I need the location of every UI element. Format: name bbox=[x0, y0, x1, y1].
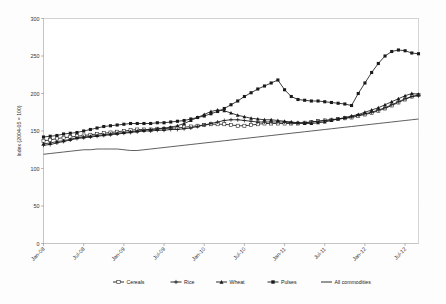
legend-item-cereals[interactable]: Cereals bbox=[113, 279, 145, 285]
y-tick-label: 150 bbox=[31, 128, 40, 134]
y-tick-label: 100 bbox=[31, 166, 40, 172]
legend-item-pulses[interactable]: Pulses bbox=[268, 279, 297, 285]
chart-svg: 050100150200250300 Jan-08Jul-08Jan-09Jul… bbox=[0, 0, 446, 304]
plot-frame bbox=[44, 19, 419, 244]
legend-label: Pulses bbox=[281, 279, 297, 285]
chart-legend: CerealsRiceWheatPulsesAll commodities bbox=[113, 279, 371, 285]
chart-figure: 050100150200250300 Jan-08Jul-08Jan-09Jul… bbox=[0, 0, 446, 304]
x-tick-label: Jul-12 bbox=[393, 246, 408, 261]
x-tick-label: Jul-08 bbox=[71, 246, 86, 261]
legend-item-all-commodities[interactable]: All commodities bbox=[321, 279, 371, 285]
x-axis-ticks: Jan-08Jul-08Jan-09Jul-09Jan-10Jul-10Jan-… bbox=[30, 244, 408, 262]
y-tick-label: 50 bbox=[34, 203, 40, 209]
x-tick-label: Jan-08 bbox=[30, 246, 46, 262]
y-tick-label: 250 bbox=[31, 53, 40, 59]
y-axis-title: Index (2004-05 = 100) bbox=[16, 105, 22, 156]
x-tick-label: Jan-10 bbox=[191, 246, 207, 262]
y-tick-label: 300 bbox=[31, 16, 40, 22]
legend-label: Rice bbox=[184, 279, 194, 285]
y-axis-ticks: 050100150200250300 bbox=[31, 16, 44, 247]
x-tick-label: Jul-10 bbox=[232, 246, 247, 261]
legend-label: All commodities bbox=[335, 279, 372, 285]
legend-item-wheat[interactable]: Wheat bbox=[216, 279, 245, 285]
legend-label: Cereals bbox=[127, 279, 145, 285]
x-tick-label: Jan-11 bbox=[271, 246, 287, 262]
y-tick-label: 0 bbox=[37, 241, 40, 247]
x-tick-label: Jul-09 bbox=[152, 246, 167, 261]
y-tick-label: 200 bbox=[31, 91, 40, 97]
x-tick-label: Jul-11 bbox=[313, 246, 327, 260]
x-tick-label: Jan-12 bbox=[351, 246, 367, 262]
x-tick-label: Jan-09 bbox=[110, 246, 126, 262]
legend-item-rice[interactable]: Rice bbox=[171, 279, 195, 285]
legend-label: Wheat bbox=[230, 279, 246, 285]
